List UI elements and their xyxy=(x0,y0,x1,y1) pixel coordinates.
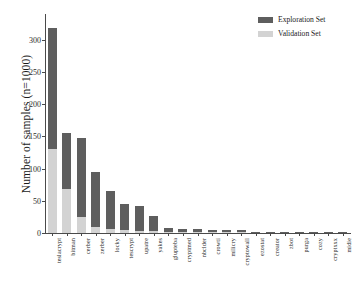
chart-legend: Exploration Set Validation Set xyxy=(258,14,325,42)
x-tick-label: tescrypt xyxy=(127,238,134,258)
x-tick-mark xyxy=(299,233,300,236)
x-tick-mark xyxy=(125,233,126,236)
bar xyxy=(77,138,86,233)
y-tick-label: 250 xyxy=(29,67,45,76)
x-tick-label: yakes xyxy=(156,238,163,253)
bar-segment-exploration xyxy=(77,138,86,217)
y-tick-label: 150 xyxy=(29,132,45,141)
x-tick-label: locky xyxy=(113,238,120,252)
bar xyxy=(135,206,144,233)
x-tick-label: upatre xyxy=(142,238,149,254)
bar xyxy=(48,28,57,233)
legend-item-validation-set: Validation Set xyxy=(258,28,325,39)
x-tick-label: cozy xyxy=(316,238,323,250)
bar xyxy=(62,133,71,233)
x-tick-mark xyxy=(110,233,111,236)
x-tick-mark xyxy=(227,233,228,236)
bar xyxy=(149,216,158,233)
bar-segment-validation xyxy=(48,149,57,233)
x-tick-mark xyxy=(67,233,68,236)
x-tick-label: glupteba xyxy=(171,238,178,260)
x-tick-label: nbclder xyxy=(200,238,207,257)
legend-label-exploration: Exploration Set xyxy=(278,14,325,25)
x-tick-mark xyxy=(328,233,329,236)
bar-segment-exploration xyxy=(91,172,100,227)
x-tick-mark xyxy=(154,233,155,236)
x-tick-label: creator xyxy=(273,238,280,256)
x-tick-mark xyxy=(256,233,257,236)
legend-swatch-validation xyxy=(258,31,273,37)
x-tick-mark xyxy=(96,233,97,236)
x-tick-label: milicry xyxy=(229,238,236,257)
x-tick-label: cryptowall xyxy=(243,238,250,265)
x-tick-label: ezostat xyxy=(258,238,265,256)
bar-segment-validation xyxy=(62,189,71,233)
x-tick-mark xyxy=(343,233,344,236)
x-tick-mark xyxy=(241,233,242,236)
x-tick-mark xyxy=(314,233,315,236)
x-tick-label: midie xyxy=(345,238,352,253)
plot-area: 050100150200250300 xyxy=(45,14,350,233)
y-tick-label: 200 xyxy=(29,100,45,109)
x-tick-mark xyxy=(198,233,199,236)
x-tick-label: cerber xyxy=(84,238,91,254)
x-tick-label: teslacrypt xyxy=(55,238,62,263)
bar xyxy=(120,204,129,233)
bar xyxy=(106,191,115,233)
x-tick-mark xyxy=(168,233,169,236)
x-tick-mark xyxy=(139,233,140,236)
x-tick-mark xyxy=(183,233,184,236)
x-tick-mark xyxy=(285,233,286,236)
x-tick-label: zbot xyxy=(287,238,294,249)
x-tick-label: zerber xyxy=(98,238,105,254)
x-tick-mark xyxy=(270,233,271,236)
bar-segment-exploration xyxy=(149,216,158,231)
y-tick-label: 0 xyxy=(37,229,45,238)
bar-segment-exploration xyxy=(62,133,71,190)
y-tick-label: 300 xyxy=(29,35,45,44)
x-tick-mark xyxy=(212,233,213,236)
x-tick-mark xyxy=(52,233,53,236)
x-tick-label: bitman xyxy=(69,238,76,256)
x-tick-label: cryptxxx xyxy=(331,238,338,261)
bar-segment-exploration xyxy=(135,206,144,231)
x-tick-label: crowti xyxy=(214,238,221,254)
y-tick-label: 100 xyxy=(29,164,45,173)
legend-label-validation: Validation Set xyxy=(278,28,321,39)
y-axis-title: Number of samples (n=1000) xyxy=(20,34,32,214)
legend-swatch-exploration xyxy=(258,17,273,23)
bar-segment-exploration xyxy=(106,191,115,228)
legend-item-exploration-set: Exploration Set xyxy=(258,14,325,25)
bar-segment-validation xyxy=(77,217,86,233)
bar-chart-figure: Number of samples (n=1000) 0501001502002… xyxy=(0,0,356,292)
bar-segment-exploration xyxy=(120,204,129,230)
bar xyxy=(91,172,100,233)
x-tick-mark xyxy=(81,233,82,236)
y-tick-label: 50 xyxy=(33,196,45,205)
bar-segment-exploration xyxy=(48,28,57,150)
x-tick-label: purga xyxy=(302,238,309,252)
x-tick-label: cryptmed xyxy=(185,238,192,262)
